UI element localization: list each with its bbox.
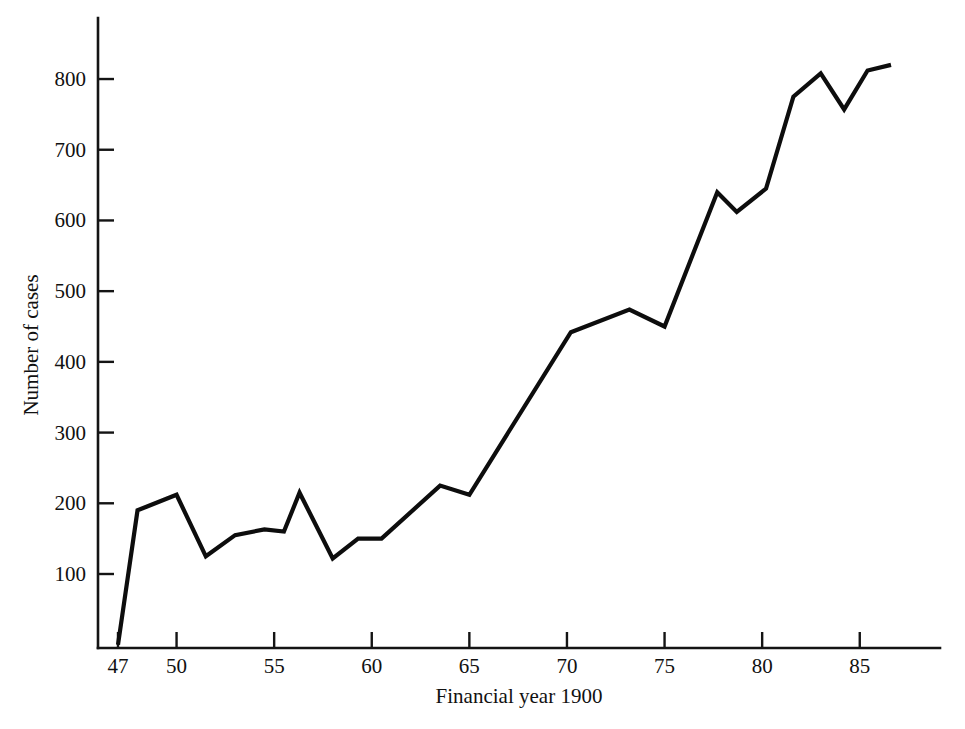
y-tick-label-700: 700 bbox=[55, 138, 87, 162]
x-tick-label-55: 55 bbox=[264, 654, 285, 678]
y-tick-label-group: 100200300400500600700800 bbox=[55, 67, 87, 586]
y-tick-label-300: 300 bbox=[55, 421, 87, 445]
chart-figure: 100200300400500600700800 475055606570758… bbox=[0, 0, 965, 729]
y-tick-label-100: 100 bbox=[55, 562, 87, 586]
y-tick-label-800: 800 bbox=[55, 67, 87, 91]
x-axis-title: Financial year 1900 bbox=[436, 684, 603, 708]
x-tick-label-65: 65 bbox=[459, 654, 480, 678]
x-tick-label-47: 47 bbox=[108, 654, 129, 678]
y-tick-label-200: 200 bbox=[55, 491, 87, 515]
y-axis-title: Number of cases bbox=[19, 274, 43, 415]
x-tick-label-50: 50 bbox=[166, 654, 187, 678]
x-tick-group bbox=[118, 632, 860, 648]
data-series-number-of-cases bbox=[118, 65, 891, 645]
y-tick-label-500: 500 bbox=[55, 279, 87, 303]
x-tick-label-60: 60 bbox=[361, 654, 382, 678]
x-tick-label-80: 80 bbox=[752, 654, 773, 678]
y-tick-label-600: 600 bbox=[55, 208, 87, 232]
x-tick-label-75: 75 bbox=[654, 654, 675, 678]
line-chart-canvas: 100200300400500600700800 475055606570758… bbox=[0, 0, 965, 729]
x-tick-label-70: 70 bbox=[556, 654, 577, 678]
x-tick-label-85: 85 bbox=[849, 654, 870, 678]
x-tick-label-group: 475055606570758085 bbox=[108, 654, 871, 678]
y-tick-label-400: 400 bbox=[55, 350, 87, 374]
y-tick-group bbox=[98, 79, 114, 574]
